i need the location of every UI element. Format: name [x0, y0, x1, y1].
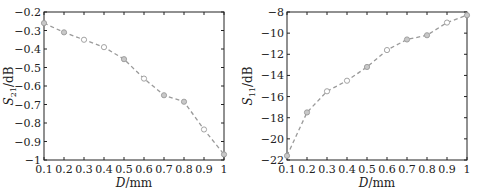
data-point-marker	[161, 93, 166, 98]
data-point-marker	[181, 99, 186, 104]
data-point-marker	[61, 30, 66, 35]
y-tick-label: −0.8	[14, 117, 41, 130]
data-point-marker	[364, 64, 369, 69]
data-point-marker	[221, 152, 226, 157]
x-tick-label: 0.7	[398, 163, 416, 176]
y-tick-label: −0.4	[14, 43, 41, 56]
y-tick-label: −20	[261, 133, 284, 146]
y-tick-label: −22	[261, 154, 284, 167]
y-tick-label: −14	[261, 69, 284, 82]
x-tick-label: 1	[221, 163, 228, 176]
x-tick-label: 0.5	[115, 163, 133, 176]
x-tick-label: 0.3	[75, 163, 93, 176]
data-point-marker	[121, 57, 126, 62]
x-tick-label: 0.8	[175, 163, 193, 176]
x-tick-label: 0.9	[438, 163, 456, 176]
y-tick-label: −18	[261, 112, 284, 125]
data-point-marker	[101, 45, 106, 50]
data-point-marker	[344, 78, 349, 83]
y-tick-label: −0.9	[14, 136, 41, 149]
x-tick-label: 0.4	[95, 163, 113, 176]
y-tick-label: −10	[261, 27, 284, 40]
x-tick-label: 0.3	[318, 163, 336, 176]
y-tick-label: −0.3	[14, 25, 41, 38]
chart-s21: 0.10.20.30.40.50.60.70.80.91−0.2−0.3−0.4…	[0, 0, 239, 195]
y-tick-label: −0.5	[14, 62, 41, 75]
y-tick-label: −16	[261, 91, 284, 104]
data-point-marker	[41, 21, 46, 26]
data-point-marker	[284, 153, 289, 158]
y-tick-label: −1	[25, 154, 41, 167]
data-point-marker	[324, 89, 329, 94]
x-tick-label: 0.5	[358, 163, 376, 176]
data-line	[44, 23, 224, 154]
plot-area	[287, 12, 467, 160]
y-tick-label: −0.2	[14, 6, 41, 19]
data-point-marker	[304, 110, 309, 115]
y-tick-label: −0.6	[14, 80, 41, 93]
data-point-marker	[424, 33, 429, 38]
data-point-marker	[464, 13, 469, 18]
x-tick-label: 1	[464, 163, 471, 176]
x-tick-label: 0.8	[418, 163, 436, 176]
x-axis-label: D/mm	[115, 176, 153, 190]
data-line	[287, 15, 467, 156]
plot-area	[44, 12, 224, 160]
x-tick-label: 0.2	[55, 163, 73, 176]
y-axis-label: S21/dB	[2, 66, 18, 105]
x-tick-label: 0.6	[378, 163, 396, 176]
y-tick-label: −8	[268, 6, 284, 19]
x-tick-label: 0.9	[195, 163, 213, 176]
y-tick-label: −0.7	[14, 99, 41, 112]
x-tick-label: 0.7	[155, 163, 173, 176]
data-point-marker	[384, 47, 389, 52]
y-tick-label: −12	[261, 48, 284, 61]
x-axis-label: D/mm	[358, 176, 396, 190]
data-point-marker	[81, 37, 86, 42]
data-point-marker	[444, 20, 449, 25]
y-axis-label: S11/dB	[241, 66, 257, 105]
x-tick-label: 0.4	[338, 163, 356, 176]
data-point-marker	[404, 37, 409, 42]
chart-s11: 0.10.20.30.40.50.60.70.80.91−8−10−12−14−…	[239, 0, 478, 195]
x-tick-label: 0.2	[298, 163, 316, 176]
data-point-marker	[141, 76, 146, 81]
x-tick-label: 0.6	[135, 163, 153, 176]
data-point-marker	[201, 127, 206, 132]
